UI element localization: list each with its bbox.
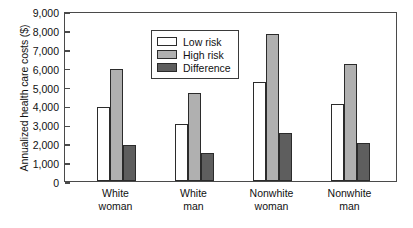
y-tick-6000: 6,000 xyxy=(33,64,65,76)
legend-swatch-low-risk xyxy=(157,37,177,46)
y-tick-mark xyxy=(65,12,70,14)
bar-high-0 xyxy=(110,69,123,181)
bar-diff-0 xyxy=(123,145,136,181)
chart-legend: Low risk High risk Difference xyxy=(151,30,239,79)
y-tick-mark xyxy=(65,69,70,71)
bar-high-3 xyxy=(344,64,357,181)
bar-diff-1 xyxy=(201,153,214,181)
y-tick-9000: 9,000 xyxy=(33,7,65,19)
x-label-line2: man xyxy=(328,200,372,213)
legend-item-low-risk: Low risk xyxy=(157,35,231,48)
y-tick-mark xyxy=(65,50,70,52)
x-label-nonwhite-man: Nonwhiteman xyxy=(328,187,372,213)
x-label-line2: man xyxy=(180,200,207,213)
bar-group-nonwhite-man xyxy=(331,13,370,181)
y-tick-mark xyxy=(65,107,70,109)
bar-diff-2 xyxy=(279,133,292,181)
x-label-line1: Nonwhite xyxy=(328,187,372,199)
bar-chart: Annualized health care costs ($) 9,0008,… xyxy=(0,0,413,228)
y-tick-5000: 5,000 xyxy=(33,83,65,95)
y-tick-mark xyxy=(65,31,70,33)
y-tick-mark xyxy=(65,182,70,184)
legend-item-difference: Difference xyxy=(157,61,231,74)
x-label-nonwhite-woman: Nonwhitewoman xyxy=(250,187,294,213)
y-tick-mark xyxy=(65,144,70,146)
x-label-line2: woman xyxy=(250,200,294,213)
y-tick-8000: 8,000 xyxy=(33,26,65,38)
y-tick-2000: 2,000 xyxy=(33,139,65,151)
plot-area: 9,0008,0007,0006,0005,0004,0003,0002,000… xyxy=(64,12,397,182)
legend-swatch-high-risk xyxy=(157,50,177,59)
x-label-line1: White xyxy=(180,187,207,199)
bar-diff-3 xyxy=(357,143,370,181)
y-tick-0: 0 xyxy=(53,177,65,189)
bar-low-3 xyxy=(331,104,344,181)
x-label-line2: woman xyxy=(99,200,133,213)
x-label-white-woman: Whitewoman xyxy=(99,187,133,213)
legend-item-high-risk: High risk xyxy=(157,48,231,61)
legend-label-high-risk: High risk xyxy=(183,49,224,61)
x-label-white-man: Whiteman xyxy=(180,187,207,213)
y-tick-mark xyxy=(65,163,70,165)
x-label-line1: Nonwhite xyxy=(250,187,294,199)
bar-low-1 xyxy=(175,124,188,181)
bar-low-0 xyxy=(97,107,110,181)
legend-swatch-difference xyxy=(157,63,177,72)
bar-low-2 xyxy=(253,82,266,181)
legend-label-difference: Difference xyxy=(183,62,231,74)
y-tick-4000: 4,000 xyxy=(33,101,65,113)
bar-group-white-woman xyxy=(97,13,136,181)
y-tick-mark xyxy=(65,88,70,90)
bar-high-1 xyxy=(188,93,201,181)
y-tick-7000: 7,000 xyxy=(33,45,65,57)
y-axis-title: Annualized health care costs ($) xyxy=(18,8,30,188)
legend-label-low-risk: Low risk xyxy=(183,36,222,48)
bar-group-nonwhite-woman xyxy=(253,13,292,181)
y-tick-mark xyxy=(65,126,70,128)
y-tick-3000: 3,000 xyxy=(33,120,65,132)
y-tick-1000: 1,000 xyxy=(33,158,65,170)
x-label-line1: White xyxy=(102,187,129,199)
bar-high-2 xyxy=(266,34,279,181)
